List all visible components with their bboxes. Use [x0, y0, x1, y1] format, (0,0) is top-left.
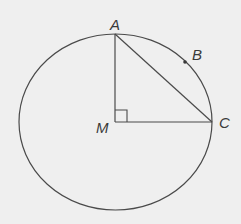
label-C: C	[219, 114, 230, 131]
label-B: B	[192, 46, 202, 63]
label-A: A	[109, 16, 120, 33]
right-angle-marker	[115, 110, 127, 122]
geometry-diagram: A B C M	[0, 0, 241, 224]
label-M: M	[96, 119, 109, 136]
point-B-dot	[183, 60, 187, 64]
